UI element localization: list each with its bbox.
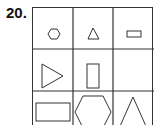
small-hexagon-icon bbox=[48, 29, 60, 39]
small-triangle-icon bbox=[88, 28, 99, 39]
large-rectangle-icon bbox=[36, 103, 70, 121]
large-triangle-icon bbox=[117, 97, 149, 125]
tall-rectangle-icon bbox=[87, 64, 99, 88]
small-rectangle-icon bbox=[127, 31, 141, 37]
question-number: 20. bbox=[6, 4, 27, 21]
large-hexagon-icon bbox=[75, 96, 111, 125]
shape-grid bbox=[32, 7, 153, 125]
shapes bbox=[33, 8, 154, 125]
right-triangle-icon bbox=[42, 64, 63, 88]
